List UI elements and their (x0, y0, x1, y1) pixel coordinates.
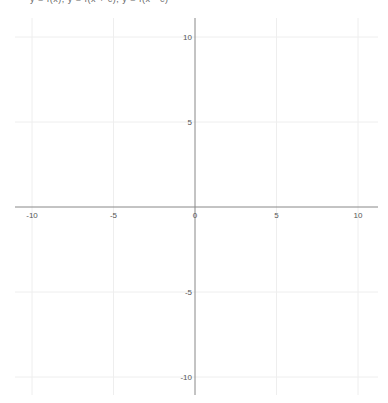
x-tick-label: -10 (26, 211, 38, 220)
y-tick-label: 5 (188, 118, 193, 127)
x-tick-label: -5 (110, 211, 118, 220)
x-tick-label: 10 (354, 211, 363, 220)
y-tick-label: -10 (180, 373, 192, 382)
x-tick-label: 0 (193, 211, 198, 220)
y-tick-label: 10 (183, 33, 192, 42)
coordinate-plane: -10-50510105-5-10 (0, 0, 388, 403)
y-tick-label: -5 (185, 288, 193, 297)
x-tick-label: 5 (274, 211, 279, 220)
